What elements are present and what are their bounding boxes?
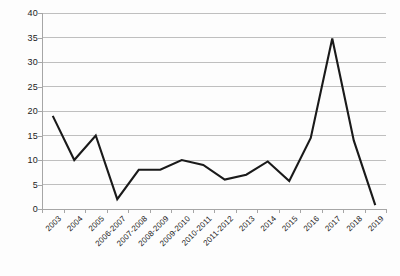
x-axis-tick-mark — [279, 209, 280, 213]
y-axis-tick-mark — [38, 136, 42, 137]
y-axis-tick-label: 15 — [0, 131, 38, 141]
y-axis-tick-label: 35 — [0, 33, 38, 43]
y-axis-tick-label: 10 — [0, 155, 38, 165]
x-axis-tick-mark — [128, 209, 129, 213]
y-axis-tick-label: 25 — [0, 82, 38, 92]
x-axis-tick-mark — [150, 209, 151, 213]
x-axis-tick-mark — [171, 209, 172, 213]
y-axis-tick-mark — [38, 160, 42, 161]
x-axis-tick-mark — [42, 209, 43, 213]
data-line-series-1 — [53, 38, 376, 205]
y-axis-tick-mark — [38, 185, 42, 186]
x-axis-tick-mark — [107, 209, 108, 213]
y-axis-tick-label: 0 — [0, 204, 38, 214]
y-axis-line — [42, 13, 43, 209]
x-axis-tick-mark — [386, 209, 387, 213]
y-axis-tick-mark — [38, 38, 42, 39]
x-axis-tick-mark — [365, 209, 366, 213]
y-axis-tick-label: 30 — [0, 57, 38, 67]
x-axis-tick-mark — [85, 209, 86, 213]
line-chart: 0510152025303540 2003200420052006-200720… — [0, 0, 400, 276]
y-axis-tick-mark — [38, 87, 42, 88]
x-axis-tick-mark — [322, 209, 323, 213]
plot-area — [42, 13, 386, 209]
x-axis-tick-mark — [193, 209, 194, 213]
x-axis-tick-mark — [64, 209, 65, 213]
x-axis-tick-mark — [236, 209, 237, 213]
y-axis-tick-label: 5 — [0, 180, 38, 190]
y-axis-tick-labels: 0510152025303540 — [0, 0, 38, 276]
x-axis-tick-mark — [257, 209, 258, 213]
y-axis-tick-mark — [38, 62, 42, 63]
x-axis-tick-labels: 2003200420052006-20072007-20082008-20092… — [42, 214, 386, 276]
x-axis-tick-mark — [300, 209, 301, 213]
y-axis-tick-label: 20 — [0, 106, 38, 116]
y-axis-tick-mark — [38, 13, 42, 14]
data-series-layer — [42, 13, 386, 209]
x-axis-tick-mark — [343, 209, 344, 213]
y-axis-tick-mark — [38, 111, 42, 112]
x-axis-tick-mark — [214, 209, 215, 213]
y-axis-tick-label: 40 — [0, 8, 38, 18]
